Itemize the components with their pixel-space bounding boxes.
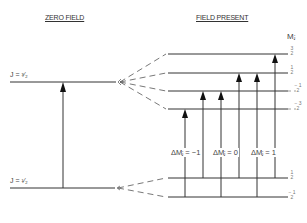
selection-rule-zero: ΔMⱼ = 0 bbox=[212, 148, 239, 157]
level-label-j-1-2: J = ¹⁄₂ bbox=[10, 177, 28, 184]
upper-splitting-lines bbox=[118, 54, 166, 197]
mj-label-lower-minus-1-2: − 1 2 bbox=[288, 190, 296, 200]
field-transitions bbox=[185, 62, 275, 197]
mj-label-minus-3-2: − 3 2 bbox=[294, 101, 302, 111]
mj-label-minus-1-2: − 1 2 bbox=[294, 83, 302, 93]
zero-field-header: ZERO FIELD bbox=[45, 14, 84, 21]
field-levels bbox=[168, 54, 288, 197]
arrowheads bbox=[182, 54, 278, 118]
selection-rule-plus-one: ΔMⱼ = 1 bbox=[250, 148, 277, 157]
mj-axis-label: Mⱼ bbox=[287, 32, 295, 41]
mj-label-1-2: 1 2 bbox=[288, 65, 296, 75]
mj-label-lower-1-2: 1 2 bbox=[288, 170, 296, 180]
level-label-j-3-2: J = ³⁄₂ bbox=[10, 71, 28, 78]
selection-rule-minus-one: ΔMⱼ = −1 bbox=[170, 148, 201, 157]
mj-label-3-2: 3 2 bbox=[288, 46, 296, 56]
energy-level-diagram bbox=[0, 0, 307, 223]
field-present-header: FIELD PRESENT bbox=[196, 14, 248, 21]
arrowhead-icon bbox=[60, 82, 66, 92]
